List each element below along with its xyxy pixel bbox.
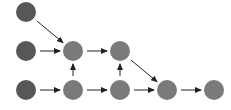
edge-n4-to-n8: [131, 60, 157, 82]
node-n8: [157, 80, 177, 100]
node-n9: [204, 80, 224, 100]
node-n7: [110, 80, 130, 100]
node-n3: [63, 41, 83, 61]
edge-n1-to-n3: [37, 21, 63, 43]
node-n6: [63, 80, 83, 100]
node-n1: [16, 2, 36, 22]
node-n5: [16, 80, 36, 100]
directed-graph-diagram: [0, 0, 231, 110]
node-n2: [16, 41, 36, 61]
node-n4: [110, 41, 130, 61]
